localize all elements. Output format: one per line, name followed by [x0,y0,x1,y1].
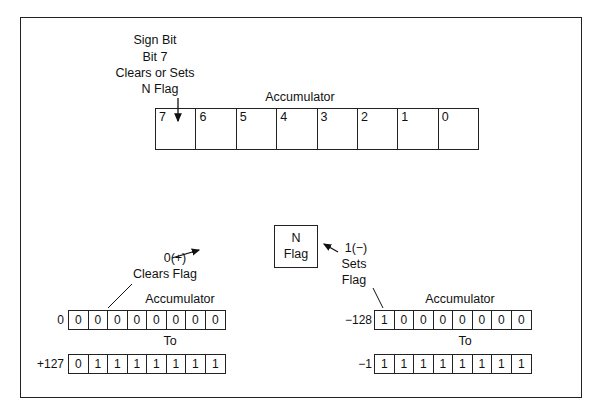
positive-to-flag-arrow [172,250,199,258]
positive-leader-line [108,284,132,308]
arrows-layer [0,0,602,406]
negative-leader-line [373,288,383,308]
negative-to-flag-arrow [324,244,338,252]
